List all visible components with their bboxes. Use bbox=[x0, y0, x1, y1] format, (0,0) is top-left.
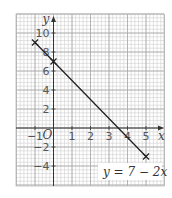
y-tick-label: −2 bbox=[33, 141, 49, 154]
y-tick-label: 10 bbox=[36, 27, 50, 40]
equation-label-text: y = 7 − 2x bbox=[102, 165, 167, 179]
y-axis-label: y bbox=[42, 12, 50, 26]
x-tick-label: 4 bbox=[124, 130, 131, 143]
x-tick-label: 1 bbox=[69, 130, 76, 143]
x-tick-label: 2 bbox=[87, 130, 94, 143]
origin-label: O bbox=[43, 128, 53, 142]
y-tick-label: 2 bbox=[43, 103, 50, 116]
equation-label: y = 7 − 2x bbox=[98, 163, 167, 180]
x-tick-label: 3 bbox=[106, 130, 113, 143]
line-graph: xyO −112345−4−2246810 y = 7 − 2x bbox=[0, 0, 172, 198]
y-axis-arrow-icon bbox=[51, 16, 56, 22]
x-tick-label: 5 bbox=[143, 130, 150, 143]
y-tick-label: 6 bbox=[43, 65, 50, 78]
x-axis-label: x bbox=[158, 129, 165, 143]
y-tick-label: 4 bbox=[43, 84, 50, 97]
y-tick-label: −4 bbox=[33, 160, 49, 173]
